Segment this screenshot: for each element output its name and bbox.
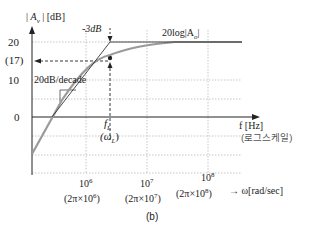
xtick-1e6: 106 bbox=[79, 178, 93, 189]
figure-caption: (b) bbox=[146, 212, 158, 222]
level-arrow-icon bbox=[34, 59, 41, 64]
flat-gain-end: | bbox=[198, 27, 200, 38]
xtick-2pi-1e6: (2π×106) bbox=[64, 193, 100, 204]
wL-text: (ω bbox=[100, 130, 111, 142]
xtick-1e8-exp: 8 bbox=[211, 171, 215, 179]
log-scale-label: (로그스케일) bbox=[241, 133, 292, 143]
y-axis-title: | Av | [dB] bbox=[26, 12, 65, 25]
ytick-10: 10 bbox=[8, 75, 19, 86]
xtick-1e7-base: 10 bbox=[140, 178, 150, 189]
omega-axis-label: → ω[rad/sec] bbox=[229, 186, 283, 196]
xtick-2pi-1e6-base: (2π×10 bbox=[64, 193, 93, 204]
down-arrow-icon bbox=[108, 36, 113, 42]
xtick-1e6-exp: 6 bbox=[89, 177, 93, 185]
flat-gain-label: 20log|Ao| bbox=[162, 28, 200, 41]
xtick-2pi-1e7-close: ) bbox=[158, 193, 161, 204]
ytick-17: (17) bbox=[5, 55, 23, 66]
slope-label: 20dB/decade bbox=[34, 75, 86, 85]
xtick-1e7: 107 bbox=[140, 178, 154, 189]
y-title-post: | [dB] bbox=[40, 11, 65, 22]
xtick-1e8: 108 bbox=[201, 172, 215, 183]
xtick-1e8-base: 10 bbox=[201, 172, 211, 183]
xtick-2pi-1e8-close: ) bbox=[209, 188, 212, 199]
y-axis-arrow-icon bbox=[29, 26, 35, 34]
wL-label: (ωL) bbox=[100, 131, 119, 145]
minus3db-label: -3dB bbox=[82, 24, 101, 34]
xtick-2pi-1e8: (2π×108) bbox=[176, 188, 212, 199]
flat-gain-text: 20log|A bbox=[162, 27, 194, 38]
wL-end: ) bbox=[115, 130, 119, 142]
xtick-2pi-1e7-base: (2π×10 bbox=[125, 193, 154, 204]
xtick-1e6-base: 10 bbox=[79, 178, 89, 189]
xtick-2pi-1e6-close: ) bbox=[97, 193, 100, 204]
x-axis-title: f [Hz] bbox=[239, 121, 263, 131]
ytick-0: 0 bbox=[14, 112, 20, 123]
up-arrow-icon bbox=[108, 62, 113, 68]
xtick-2pi-1e7: (2π×107) bbox=[125, 193, 161, 204]
ytick-20: 20 bbox=[8, 37, 19, 48]
xtick-2pi-1e8-base: (2π×10 bbox=[176, 188, 205, 199]
xtick-1e7-exp: 7 bbox=[150, 177, 154, 185]
actual-response-curve bbox=[32, 42, 242, 154]
